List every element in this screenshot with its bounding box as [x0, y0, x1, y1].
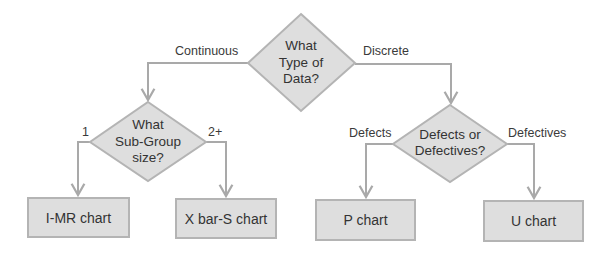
decision-defects-line1: Defects or: [419, 127, 481, 143]
outcome-imr-chart-label: I-MR chart: [46, 210, 111, 226]
decision-subgroup-line2: Sub-Group: [115, 134, 181, 150]
connector-continuous: [148, 63, 248, 100]
edge-label-two-plus: 2+: [208, 126, 222, 139]
edge-label-defectives: Defectives: [508, 127, 566, 140]
decision-data-type-line3: Data?: [283, 71, 319, 87]
decision-data-type-line2: Type of: [279, 55, 323, 71]
outcome-p-chart: P chart: [315, 199, 416, 241]
outcome-p-chart-label: P chart: [343, 212, 387, 228]
connector-two-plus: [206, 142, 226, 196]
connector-one: [78, 142, 90, 195]
edge-label-continuous: Continuous: [175, 45, 238, 58]
edge-label-discrete: Discrete: [363, 45, 409, 58]
outcome-u-chart-label: U chart: [511, 213, 556, 229]
decision-subgroup-line1: What: [132, 117, 164, 133]
decision-defects: Defects or Defectives?: [398, 112, 502, 174]
edge-label-defects: Defects: [349, 127, 391, 140]
edge-label-one: 1: [82, 126, 89, 139]
decision-subgroup: What Sub-Group size?: [98, 104, 198, 180]
decision-subgroup-line3: size?: [132, 150, 164, 166]
connector-discrete: [355, 64, 451, 103]
decision-data-type-line1: What: [285, 38, 317, 54]
outcome-xbar-s-chart: X bar-S chart: [175, 198, 277, 239]
decision-data-type: What Type of Data?: [256, 22, 346, 104]
connector-defectives: [507, 144, 534, 198]
connector-defects: [366, 144, 393, 197]
decision-defects-line2: Defectives?: [415, 143, 486, 159]
outcome-imr-chart: I-MR chart: [27, 197, 130, 238]
outcome-xbar-s-chart-label: X bar-S chart: [185, 211, 267, 227]
outcome-u-chart: U chart: [483, 200, 584, 242]
flowchart: What Type of Data? What Sub-Group size? …: [0, 0, 606, 254]
